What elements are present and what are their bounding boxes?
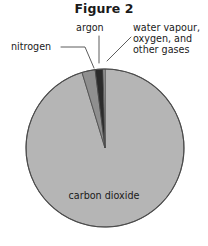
pie-slices — [26, 69, 184, 227]
callout-label-other-gases: water vapour, oxygen, and other gases — [133, 22, 200, 56]
figure-container: Figure 2 nitrogen argon water vapour, ox… — [0, 0, 208, 246]
slice-label-carbon-dioxide: carbon dioxide — [0, 190, 208, 201]
callout-label-argon: argon — [76, 22, 104, 33]
callout-label-nitrogen: nitrogen — [11, 41, 51, 52]
